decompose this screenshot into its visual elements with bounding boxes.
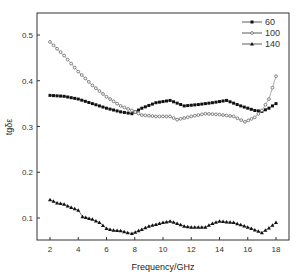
series-140	[48, 198, 278, 235]
legend-label: 140	[265, 39, 280, 49]
series-100	[49, 40, 278, 123]
x-tick-label: 16	[243, 245, 252, 254]
legend-item-60: 60	[242, 17, 275, 27]
y-tick-label: 0.4	[22, 77, 34, 86]
x-tick-label: 6	[104, 245, 109, 254]
chart: 0.10.20.30.40.5 24681012141618 Frequency…	[0, 0, 300, 277]
legend: 60100140	[242, 17, 280, 49]
x-tick-label: 12	[187, 245, 196, 254]
y-tick-label: 0.5	[22, 31, 34, 40]
x-tick-label: 8	[133, 245, 138, 254]
series-60	[49, 94, 278, 115]
plot-frame	[37, 13, 289, 240]
x-tick-label: 10	[159, 245, 168, 254]
x-tick-label: 4	[76, 245, 81, 254]
series-layer	[48, 40, 278, 235]
x-tick-label: 14	[215, 245, 224, 254]
legend-label: 100	[265, 28, 280, 38]
x-tick-label: 2	[48, 245, 53, 254]
y-tick-label: 0.1	[22, 214, 34, 223]
x-tick-label: 18	[272, 245, 281, 254]
y-axis-label: tgδε	[4, 119, 14, 136]
y-tick-label: 0.3	[22, 123, 34, 132]
legend-item-140: 140	[242, 39, 280, 49]
legend-item-100: 100	[242, 28, 280, 38]
y-tick-label: 0.2	[22, 168, 34, 177]
x-axis-label: Frequency/GHz	[131, 262, 195, 272]
legend-label: 60	[265, 17, 275, 27]
